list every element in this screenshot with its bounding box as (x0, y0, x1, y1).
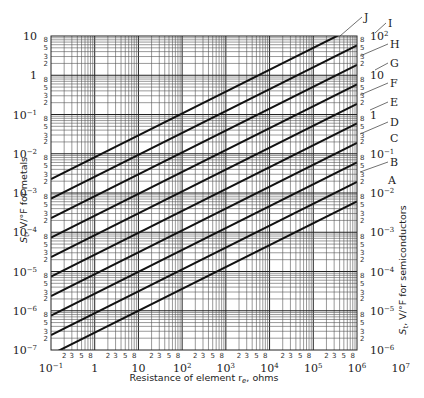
svg-text:2: 2 (360, 178, 364, 186)
svg-text:2: 2 (360, 295, 364, 303)
svg-text:5: 5 (360, 280, 364, 288)
svg-text:8: 8 (360, 272, 364, 280)
svg-text:8: 8 (263, 352, 267, 360)
svg-text:3: 3 (44, 249, 48, 257)
svg-text:10−3: 10−3 (370, 226, 394, 239)
svg-text:10−5: 10−5 (370, 305, 394, 318)
svg-text:8: 8 (360, 115, 364, 123)
svg-text:3: 3 (70, 352, 74, 360)
svg-text:10: 10 (370, 69, 384, 82)
svg-text:5: 5 (79, 352, 83, 360)
svg-text:2: 2 (324, 352, 328, 360)
svg-text:3: 3 (360, 289, 364, 297)
svg-text:3: 3 (44, 171, 48, 179)
svg-text:3: 3 (44, 289, 48, 297)
svg-text:2: 2 (360, 60, 364, 68)
svg-text:2: 2 (44, 99, 48, 107)
svg-text:5: 5 (342, 352, 346, 360)
svg-text:10−2: 10−2 (370, 187, 394, 200)
svg-text:3: 3 (244, 352, 248, 360)
svg-text:10−6: 10−6 (13, 305, 38, 318)
chart: 2358235823582358235823582358223355882233… (0, 0, 424, 398)
svg-text:5: 5 (298, 352, 302, 360)
svg-text:2: 2 (44, 295, 48, 303)
curve-label-f: F (390, 77, 398, 90)
svg-text:2: 2 (149, 352, 153, 360)
svg-text:3: 3 (113, 352, 117, 360)
svg-text:102: 102 (370, 30, 388, 43)
svg-text:2: 2 (360, 217, 364, 225)
svg-text:10−7: 10−7 (13, 344, 37, 357)
svg-text:8: 8 (360, 154, 364, 162)
svg-text:107: 107 (391, 362, 409, 375)
svg-text:2: 2 (280, 352, 284, 360)
svg-text:2: 2 (44, 138, 48, 146)
svg-text:10−6: 10−6 (370, 344, 395, 357)
curve-label-g: G (390, 57, 399, 70)
svg-text:5: 5 (167, 352, 171, 360)
svg-text:3: 3 (332, 352, 336, 360)
svg-text:8: 8 (132, 352, 136, 360)
svg-text:5: 5 (360, 201, 364, 209)
svg-text:5: 5 (44, 280, 48, 288)
svg-text:3: 3 (44, 328, 48, 336)
svg-text:8: 8 (44, 193, 48, 201)
svg-text:10−1: 10−1 (39, 362, 63, 375)
svg-text:8: 8 (44, 36, 48, 44)
svg-text:3: 3 (360, 249, 364, 257)
curve-label-a: A (387, 174, 397, 187)
svg-text:5: 5 (44, 123, 48, 131)
svg-text:8: 8 (44, 311, 48, 319)
svg-text:2: 2 (44, 217, 48, 225)
svg-text:8: 8 (176, 352, 180, 360)
x-axis-label: Resistance of element re, ohms (130, 372, 279, 385)
svg-text:8: 8 (44, 76, 48, 84)
svg-text:5: 5 (360, 241, 364, 249)
svg-text:3: 3 (44, 92, 48, 100)
svg-text:8: 8 (351, 352, 355, 360)
svg-text:8: 8 (44, 233, 48, 241)
svg-text:3: 3 (44, 132, 48, 140)
svg-text:8: 8 (360, 233, 364, 241)
svg-text:2: 2 (62, 352, 66, 360)
svg-text:5: 5 (210, 352, 214, 360)
svg-text:5: 5 (360, 123, 364, 131)
svg-text:3: 3 (360, 328, 364, 336)
svg-text:8: 8 (307, 352, 311, 360)
svg-text:5: 5 (123, 352, 127, 360)
curve-label-c: C (390, 132, 398, 145)
svg-text:2: 2 (44, 335, 48, 343)
svg-text:8: 8 (360, 311, 364, 319)
svg-text:8: 8 (44, 272, 48, 280)
curve-label-h: H (390, 38, 400, 51)
curve-label-d: D (390, 116, 399, 129)
svg-text:8: 8 (360, 76, 364, 84)
svg-text:8: 8 (44, 115, 48, 123)
svg-text:3: 3 (44, 53, 48, 61)
svg-text:1: 1 (370, 109, 377, 122)
svg-text:1: 1 (91, 362, 98, 375)
svg-text:5: 5 (44, 241, 48, 249)
svg-text:106: 106 (348, 362, 367, 375)
svg-text:3: 3 (201, 352, 205, 360)
curve-label-j: J (363, 11, 368, 24)
svg-text:3: 3 (288, 352, 292, 360)
svg-text:5: 5 (254, 352, 258, 360)
svg-text:2: 2 (44, 60, 48, 68)
curve-label-i: I (388, 17, 392, 30)
svg-text:5: 5 (44, 84, 48, 92)
curve-label-e: E (390, 96, 398, 109)
svg-text:105: 105 (304, 362, 322, 375)
svg-text:5: 5 (360, 162, 364, 170)
svg-text:5: 5 (360, 319, 364, 327)
svg-text:5: 5 (44, 201, 48, 209)
svg-text:5: 5 (44, 44, 48, 52)
svg-text:2: 2 (44, 178, 48, 186)
svg-text:8: 8 (219, 352, 223, 360)
svg-text:3: 3 (157, 352, 161, 360)
svg-text:10−1: 10−1 (13, 109, 37, 122)
svg-text:8: 8 (360, 193, 364, 201)
svg-text:1: 1 (30, 69, 37, 82)
svg-text:8: 8 (360, 36, 364, 44)
svg-text:10−5: 10−5 (13, 266, 37, 279)
